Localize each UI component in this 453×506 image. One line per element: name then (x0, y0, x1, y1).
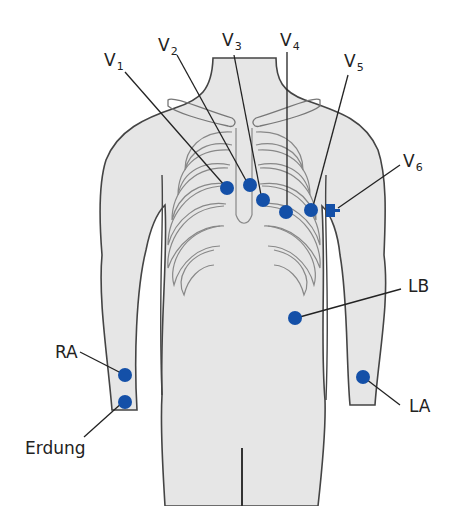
label-v3: V3 (222, 32, 242, 52)
body-diagram (0, 0, 453, 506)
label-v5: V5 (344, 53, 364, 73)
electrode-la (356, 370, 370, 384)
label-v4: V4 (280, 32, 300, 52)
label-erdung: Erdung (25, 440, 86, 457)
body-silhouette (100, 58, 385, 506)
electrode-v4 (279, 205, 293, 219)
electrode-v5 (304, 203, 318, 217)
electrode-lb (288, 311, 302, 325)
electrode-ra (118, 368, 132, 382)
electrode-v3 (256, 193, 270, 207)
label-v1: V1 (104, 52, 124, 72)
label-v6: V6 (403, 153, 423, 173)
label-la: LA (409, 398, 431, 415)
label-lb: LB (408, 278, 429, 295)
electrode-v1 (220, 181, 234, 195)
electrode-erdung (118, 395, 132, 409)
electrode-v6-clip (334, 209, 340, 212)
electrode-v2 (243, 178, 257, 192)
label-ra: RA (55, 344, 78, 361)
label-v2: V2 (158, 37, 178, 57)
electrode-v6 (326, 204, 335, 217)
